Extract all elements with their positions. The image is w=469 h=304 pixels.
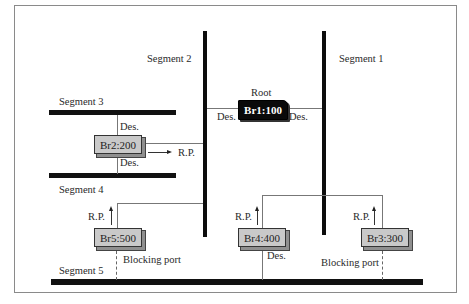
- segment-5-label: Segment 5: [59, 266, 104, 277]
- br1-des-left: Des.: [217, 112, 236, 123]
- br5-rp-arrow: [111, 209, 112, 225]
- br3-blocking-label: Blocking port: [321, 258, 379, 269]
- segment-1-line: [322, 31, 326, 235]
- br4-des-label: Des.: [267, 251, 286, 262]
- br1-des-right: Des.: [289, 112, 308, 123]
- segment-4-label: Segment 4: [59, 185, 104, 196]
- br2-rp-arrow: [148, 152, 168, 153]
- segment-3-label: Segment 3: [59, 97, 104, 108]
- br2-des-top: Des.: [120, 122, 139, 133]
- br3-blocking-link: [382, 251, 383, 280]
- br2-des-bottom: Des.: [120, 158, 139, 169]
- segment-1-label: Segment 1: [339, 54, 384, 65]
- br5-wire-v: [117, 203, 118, 228]
- bridge-br4[interactable]: Br4:400: [238, 228, 286, 247]
- bridge-br2[interactable]: Br2:200: [94, 135, 142, 154]
- br3-rp-label: R.P.: [353, 212, 370, 223]
- segment-5-line: [51, 279, 423, 285]
- bridge-br3[interactable]: Br3:300: [361, 228, 409, 247]
- br4-rp-label: R.P.: [235, 212, 252, 223]
- segment-2-label: Segment 2: [147, 54, 192, 65]
- br4-wire-down: [262, 251, 263, 280]
- br3-wire-v: [382, 195, 383, 228]
- segment-2-line: [203, 31, 207, 237]
- br5-blocking-label: Blocking port: [123, 255, 181, 266]
- br5-wire-h: [117, 203, 203, 204]
- diagram-frame: [14, 5, 457, 293]
- br5-rp-label: R.P.: [88, 212, 105, 223]
- br4-wire-v: [262, 195, 263, 228]
- bridge-br1[interactable]: Br1:100: [238, 100, 288, 120]
- br2-wire-right: [146, 143, 203, 144]
- bridge-br5[interactable]: Br5:500: [94, 228, 142, 247]
- segment-4-line: [49, 173, 176, 178]
- br3-rp-arrow: [374, 209, 375, 225]
- segment-3-line: [49, 110, 176, 115]
- br5-blocking-link: [116, 251, 117, 280]
- br4-rp-arrow: [257, 209, 258, 225]
- br2-rp-label: R.P.: [178, 148, 195, 159]
- br4-br3-wire-h: [262, 195, 383, 196]
- root-label: Root: [251, 88, 271, 99]
